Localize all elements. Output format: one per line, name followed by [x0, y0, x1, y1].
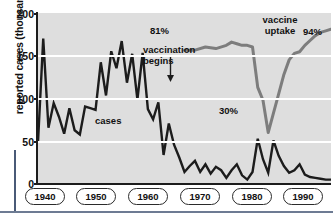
gridline-50	[38, 141, 331, 143]
annotation-uptake-94-percent: 94%	[303, 27, 322, 38]
y-tick-200: 200	[0, 8, 34, 20]
y-tick-100: 100	[0, 93, 34, 105]
y-tick-150: 150	[0, 50, 34, 62]
annotation-vaccination-begins-line2: begins	[143, 56, 223, 67]
x-tick-1980: 1980	[232, 188, 272, 205]
y-tick-50: 50	[0, 136, 34, 148]
gridline-100	[38, 98, 331, 100]
x-axis-line	[36, 183, 331, 185]
annotation-uptake-81-percent: 81%	[150, 26, 169, 37]
annotation-uptake-30-percent: 30%	[219, 106, 238, 117]
annotation-vaccine-uptake-line1: vaccine	[252, 15, 308, 26]
annotation-vaccine-uptake: vaccine uptake	[252, 15, 308, 36]
annotation-vaccination-begins: vaccination begins	[143, 45, 223, 66]
vaccination-begins-arrow-icon	[166, 57, 175, 83]
x-tick-1990: 1990	[283, 188, 323, 205]
x-tick-1940: 1940	[25, 188, 65, 205]
x-tick-1960: 1960	[128, 188, 168, 205]
y-axis-ticks: 200 150 100 50 0	[0, 0, 34, 220]
annotation-cases: cases	[95, 116, 121, 127]
x-tick-1970: 1970	[180, 188, 220, 205]
page-rule-horizontal	[0, 211, 333, 213]
x-tick-1950: 1950	[76, 188, 116, 205]
annotation-vaccination-begins-line1: vaccination	[143, 45, 223, 56]
plot-area	[38, 13, 331, 183]
annotation-vaccine-uptake-line2: uptake	[252, 26, 308, 37]
